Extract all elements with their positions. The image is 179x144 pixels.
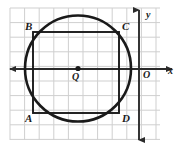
vertex-label-a: A xyxy=(24,112,32,124)
center-label-q: Q xyxy=(72,71,79,82)
y-axis-label: y xyxy=(145,9,151,20)
origin-label: O xyxy=(143,69,150,80)
figure-canvas: B C A D Q O x y xyxy=(0,0,179,144)
vertex-label-b: B xyxy=(24,20,32,32)
vertex-label-d: D xyxy=(121,112,130,124)
x-axis-label: x xyxy=(167,65,173,76)
geometry-figure: B C A D Q O x y xyxy=(0,0,179,144)
vertex-label-c: C xyxy=(122,20,130,32)
